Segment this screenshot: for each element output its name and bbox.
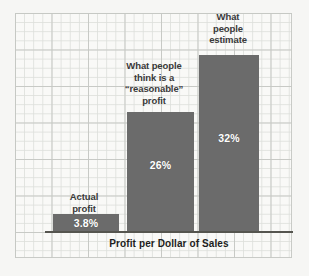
x-axis-title: Profit per Dollar of Sales [45,238,293,249]
bar-reasonable-profit[interactable]: 26% [127,112,194,231]
bar-caption-line: “reasonable” [113,83,195,95]
bar-caption-line: profit [48,203,120,215]
bar-caption-people-estimate: What people estimate [192,11,264,46]
bar-value-label: 32% [199,132,259,144]
bar-caption-reasonable-profit: What people think is a “reasonable” prof… [113,60,195,106]
x-axis-baseline [45,231,293,233]
bar-caption-line: estimate [192,34,264,46]
bar-actual-profit[interactable]: 3.8% [53,214,119,231]
bar-people-estimate[interactable]: 32% [199,55,259,231]
bar-chart-plot-area: Actual profit 3.8% What people think is … [0,0,309,276]
bar-value-label: 3.8% [53,217,119,229]
bar-caption-line: What people [113,60,195,72]
bar-caption-actual-profit: Actual profit [48,191,120,214]
bar-caption-line: think is a [113,72,195,84]
bar-value-label: 26% [127,159,194,171]
bar-caption-line: people [192,23,264,35]
bar-caption-line: What [192,11,264,23]
bar-caption-line: profit [113,95,195,107]
bar-caption-line: Actual [48,191,120,203]
